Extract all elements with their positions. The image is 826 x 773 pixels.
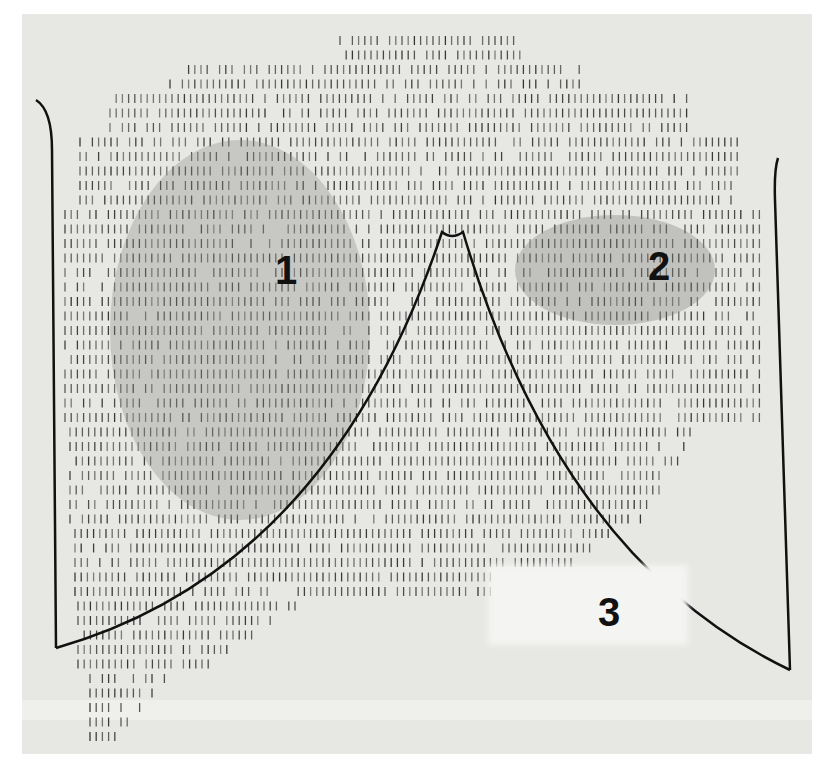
region-1-density bbox=[110, 140, 370, 520]
density-regions bbox=[110, 140, 715, 520]
label-region-1: 1 bbox=[275, 250, 297, 290]
label-outline-3: 3 bbox=[598, 592, 620, 632]
right-boundary-line bbox=[775, 158, 790, 670]
label-region-2: 2 bbox=[648, 246, 670, 286]
dot-scan-image bbox=[0, 0, 826, 773]
region-2-density bbox=[515, 215, 715, 325]
bright-patch bbox=[488, 565, 688, 645]
left-boundary-line bbox=[36, 100, 56, 648]
